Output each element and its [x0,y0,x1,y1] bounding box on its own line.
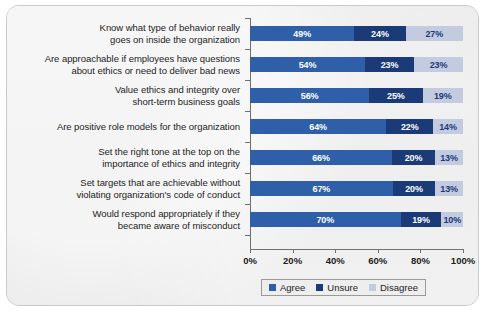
bar-segment-agree: 64% [250,119,386,134]
x-tick-mark [463,249,464,253]
bar-row: Know what type of behavior reallygoes on… [7,18,478,49]
bar-segment-agree: 67% [250,181,393,196]
x-tick-mark [420,249,421,253]
stacked-bar: 64%22%14% [250,119,463,134]
category-label-line: goes on inside the organization [110,34,240,46]
category-label-line: Set targets that are achievable without [80,177,240,189]
category-label-line: became aware of misconduct [118,220,240,232]
bar-segment-agree: 66% [250,150,392,165]
category-label: Set targets that are achievable withoutv… [8,173,240,204]
bar-segment-unsure: 24% [354,26,405,41]
legend-swatch-icon [316,284,323,291]
bar-segment-unsure: 25% [369,88,422,103]
x-tick-mark [293,249,294,253]
x-axis-line [250,249,464,250]
y-tick-mark [245,80,250,81]
x-tick-label: 60% [358,255,398,266]
stacked-bar: 70%19%10% [250,212,463,227]
legend-label: Unsure [327,282,358,293]
category-label-line: Value ethics and integrity over [115,84,240,96]
category-label-line: violating organization's code of conduct [76,189,240,201]
category-label: Would respond appropriately if theybecam… [8,204,240,235]
legend-item-unsure[interactable]: Unsure [316,282,358,293]
x-tick-mark [335,249,336,253]
bar-segment-disagree: 14% [433,119,463,134]
bar-row: Would respond appropriately if theybecam… [7,204,478,235]
stacked-bar: 67%20%13% [250,181,463,196]
bar-segment-disagree: 10% [441,212,463,227]
bar-segment-disagree: 13% [435,181,463,196]
bar-segment-unsure: 20% [393,181,436,196]
bar-row: Set the right tone at the top on theimpo… [7,142,478,173]
y-tick-mark [245,235,250,236]
category-label: Set the right tone at the top on theimpo… [8,142,240,173]
category-label-line: about ethics or need to deliver bad news [71,65,240,77]
legend-label: Disagree [380,282,418,293]
bar-segment-unsure: 19% [401,212,442,227]
chart-legend: AgreeUnsureDisagree [261,279,426,296]
bar-segment-agree: 56% [250,88,369,103]
x-tick-mark [250,249,251,253]
bar-segment-disagree: 19% [423,88,463,103]
bar-row: Are positive role models for the organiz… [7,111,478,142]
y-tick-mark [245,18,250,19]
bar-segment-unsure: 23% [365,57,414,72]
y-tick-mark [245,111,250,112]
category-label-line: importance of ethics and integrity [102,158,240,170]
bar-segment-agree: 70% [250,212,401,227]
category-label-line: Are positive role models for the organiz… [57,121,240,133]
plot-area: Know what type of behavior reallygoes on… [7,6,478,305]
bar-segment-disagree: 13% [435,150,463,165]
bar-segment-disagree: 23% [414,57,463,72]
stacked-bar: 49%24%27% [250,26,463,41]
stacked-bar: 66%20%13% [250,150,463,165]
legend-item-disagree[interactable]: Disagree [369,282,418,293]
x-tick-label: 80% [400,255,440,266]
legend-swatch-icon [369,284,376,291]
y-tick-mark [245,204,250,205]
bar-segment-agree: 49% [250,26,354,41]
y-tick-mark [245,49,250,50]
stacked-bar: 54%23%23% [250,57,463,72]
bar-segment-unsure: 22% [386,119,433,134]
category-label: Are positive role models for the organiz… [8,111,240,142]
category-label: Know what type of behavior reallygoes on… [8,18,240,49]
x-tick-mark [378,249,379,253]
bar-segment-disagree: 27% [406,26,464,41]
x-tick-label: 20% [273,255,313,266]
x-tick-label: 0% [230,255,270,266]
bar-row: Value ethics and integrity overshort-ter… [7,80,478,111]
bar-row: Set targets that are achievable withoutv… [7,173,478,204]
category-label: Are approachable if employees have quest… [8,49,240,80]
stacked-bar: 56%25%19% [250,88,463,103]
y-tick-mark [245,173,250,174]
x-tick-label: 40% [315,255,355,266]
chart-panel: Know what type of behavior reallygoes on… [6,5,479,306]
category-label-line: Set the right tone at the top on the [98,146,240,158]
legend-swatch-icon [269,284,276,291]
legend-item-agree[interactable]: Agree [269,282,305,293]
x-tick-label: 100% [443,255,479,266]
bar-row: Are approachable if employees have quest… [7,49,478,80]
legend-label: Agree [280,282,305,293]
category-label-line: Would respond appropriately if they [92,208,240,220]
category-label-line: short-term business goals [132,96,240,108]
category-label: Value ethics and integrity overshort-ter… [8,80,240,111]
bar-segment-agree: 54% [250,57,365,72]
category-label-line: Are approachable if employees have quest… [45,53,240,65]
y-tick-mark [245,142,250,143]
bar-segment-unsure: 20% [392,150,435,165]
category-label-line: Know what type of behavior really [100,22,240,34]
